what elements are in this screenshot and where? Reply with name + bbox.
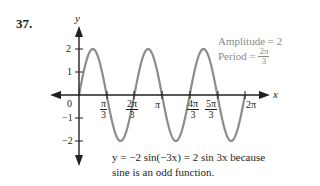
y-tick-label-1: 1 bbox=[67, 66, 72, 77]
x-axis-arrow-left bbox=[50, 91, 61, 99]
x-tick-label-2pi: 2π bbox=[246, 99, 256, 110]
y-tick-label-neg2: −2 bbox=[62, 135, 73, 146]
x-tick-label-4pi-3: 4π 3 bbox=[187, 99, 199, 120]
y-axis-label: y bbox=[75, 12, 80, 24]
caption-line-1: y = −2 sin(−3x) = 2 sin 3x because bbox=[112, 150, 265, 165]
x-tick-label-5pi-3: 5π 3 bbox=[205, 99, 217, 120]
amplitude-text: Amplitude = 2 bbox=[218, 36, 282, 47]
x-tick-label-2pi-3: 2π 3 bbox=[126, 99, 138, 120]
x-tick-label-pi: π bbox=[155, 99, 160, 110]
period-fraction: 2π3 bbox=[258, 47, 269, 66]
y-tick-label-neg1: −1 bbox=[62, 112, 73, 123]
x-axis-label: x bbox=[273, 88, 278, 100]
period-text: Period = 2π3 bbox=[218, 47, 269, 66]
origin-label: 0 bbox=[67, 98, 72, 109]
y-axis-arrow-down bbox=[75, 155, 83, 166]
x-tick-label-pi-3: π 3 bbox=[100, 99, 107, 120]
x-axis-arrow-right bbox=[259, 91, 270, 99]
y-tick-label-2: 2 bbox=[66, 43, 71, 54]
y-axis-arrow-up bbox=[75, 26, 83, 37]
caption-line-2: sine is an odd function. bbox=[112, 165, 214, 180]
